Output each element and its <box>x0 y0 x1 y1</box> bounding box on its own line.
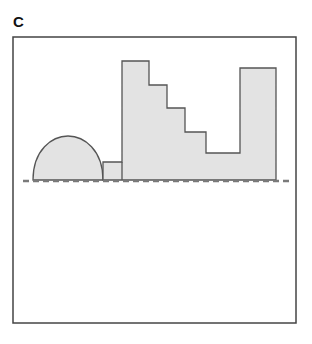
diagram-canvas <box>0 0 312 344</box>
